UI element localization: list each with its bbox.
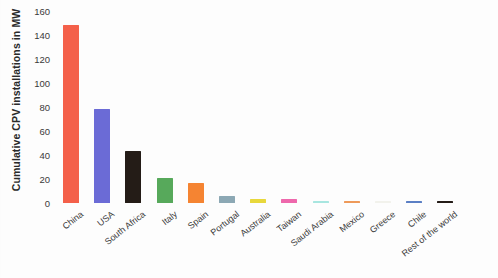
x-tick-label: Greece	[368, 209, 397, 235]
bar	[157, 178, 173, 203]
x-tick-label: Taiwan	[275, 209, 303, 234]
cpv-installations-bar-chart: Cumulative CPV installations in MW 16014…	[0, 0, 498, 278]
bar	[125, 151, 141, 203]
bar	[437, 201, 453, 203]
bar	[219, 196, 235, 203]
y-axis-title: Cumulative CPV installations in MW	[10, 0, 22, 200]
bar	[406, 201, 422, 203]
x-tick-label: Mexico	[337, 209, 366, 234]
bar	[188, 183, 204, 203]
x-tick-label: USA	[96, 209, 117, 228]
bar	[344, 201, 360, 203]
y-tick-label: 80	[39, 102, 50, 113]
bar	[281, 199, 297, 203]
plot-area	[55, 0, 498, 203]
y-tick-label: 160	[34, 6, 50, 17]
bar	[375, 201, 391, 203]
x-tick-label: China	[60, 209, 85, 231]
x-tick-label: Australia	[239, 209, 273, 238]
x-tick-label: Italy	[160, 209, 179, 227]
y-axis-tick-labels: 160140120100806040200	[26, 0, 50, 278]
bar	[63, 25, 79, 203]
y-tick-label: 0	[45, 198, 50, 209]
y-tick-label: 60	[39, 126, 50, 137]
y-tick-label: 20	[39, 174, 50, 185]
x-tick-label: Portugal	[209, 209, 242, 238]
x-axis-tick-labels: ChinaUSASouth AfricaItalySpainPortugalAu…	[55, 205, 498, 278]
x-tick-label: Chile	[406, 209, 428, 230]
bar	[250, 199, 266, 203]
y-tick-label: 120	[34, 54, 50, 65]
bar	[94, 109, 110, 203]
y-tick-label: 140	[34, 30, 50, 41]
x-tick-label: Rest of the world	[400, 209, 459, 258]
bar	[313, 201, 329, 203]
x-tick-label: Spain	[186, 209, 210, 231]
y-tick-label: 100	[34, 78, 50, 89]
y-tick-label: 40	[39, 150, 50, 161]
